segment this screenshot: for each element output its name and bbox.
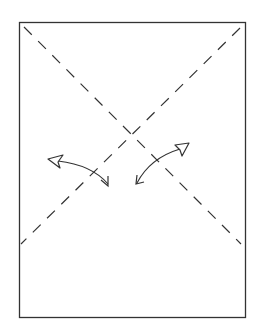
fold-diagram — [0, 0, 261, 335]
paper-rectangle — [20, 23, 246, 318]
